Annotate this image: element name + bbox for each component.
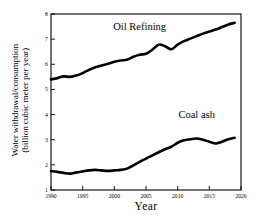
plot-frame xyxy=(51,14,241,190)
y-tick-label: 7 xyxy=(45,36,48,42)
series-label-oil-refining: Oil Refining xyxy=(113,21,167,32)
y-tick-label: 5 xyxy=(45,86,48,92)
y-axis-ticks: 12345678 xyxy=(45,11,55,193)
x-axis-ticks: 1990199520002005201020152020 xyxy=(45,186,246,199)
x-tick-label: 1995 xyxy=(77,193,88,199)
data-curves xyxy=(51,23,235,174)
x-tick-label: 2015 xyxy=(204,193,215,199)
series-label-coal-ash: Coal ash xyxy=(178,109,215,120)
y-tick-label: 8 xyxy=(45,11,48,17)
y-axis-label: Water withdrawal/consumption (billion cu… xyxy=(0,0,40,200)
y-axis-label-line2: (billion cubic meter per year) xyxy=(20,44,30,157)
series-line-coal-ash xyxy=(51,138,235,174)
y-tick-label: 6 xyxy=(45,61,48,67)
y-tick-label: 2 xyxy=(45,162,48,168)
x-tick-label: 1990 xyxy=(45,193,56,199)
x-tick-label: 2020 xyxy=(235,193,246,199)
y-tick-label: 4 xyxy=(45,112,48,118)
y-tick-label: 3 xyxy=(45,137,48,143)
x-tick-label: 2010 xyxy=(172,193,183,199)
y-axis-label-line1: Water withdrawal/consumption xyxy=(10,44,20,157)
series-annotations: Oil RefiningCoal ash xyxy=(113,21,215,120)
x-tick-label: 2005 xyxy=(140,193,151,199)
x-tick-label: 2000 xyxy=(109,193,120,199)
x-axis-label: Year xyxy=(51,200,241,212)
chart-figure: Water withdrawal/consumption (billion cu… xyxy=(0,0,254,221)
